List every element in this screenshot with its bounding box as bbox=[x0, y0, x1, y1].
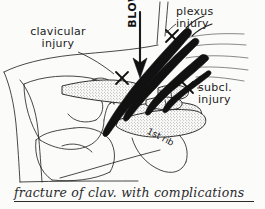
clavicle-fracture-figure: clavicular injury plexus injury subcl. i… bbox=[0, 0, 265, 209]
blow-arrow bbox=[133, 12, 147, 78]
neck-outline bbox=[157, 2, 168, 44]
plexus-injury-marker bbox=[166, 30, 178, 42]
humeral-head bbox=[36, 128, 115, 181]
first-rib bbox=[116, 109, 206, 172]
figure-canvas bbox=[0, 0, 265, 209]
